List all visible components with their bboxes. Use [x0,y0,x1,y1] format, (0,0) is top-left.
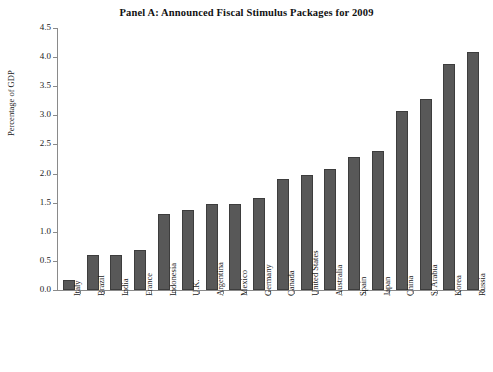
bar [420,99,432,290]
y-axis-title: Percentage of GDP [6,120,16,136]
x-axis-tick-label: Canada [286,271,296,297]
x-axis-tick-label: Korea [453,275,463,296]
x-axis-labels: ItalyBrazilIndiaFranceIndonesiaU.K.Argen… [57,296,485,372]
bar [396,111,408,290]
y-axis-tick-mark [53,144,57,145]
x-axis-tick-label: India [120,279,130,296]
x-axis-tick-label: Mexico [239,270,249,296]
y-axis-tick-mark [53,28,57,29]
bar [443,64,455,290]
x-axis-tick-label: Russia [477,273,487,296]
x-axis-tick-label: U.K. [191,279,201,296]
y-axis-line [57,28,58,290]
y-axis-tick-label: 2.5 [40,138,51,148]
y-axis-tick-label: 1.5 [40,197,51,207]
bar [372,151,384,290]
y-axis-tick-label: 4.5 [40,22,51,32]
plot-area: 0.00.51.01.52.02.53.03.54.04.5 [57,28,485,290]
x-axis-tick-label: France [144,273,154,296]
x-axis-tick-label: Italy [72,280,82,296]
y-axis-tick-mark [53,115,57,116]
y-axis-tick-mark [53,290,57,291]
y-axis-tick-mark [53,57,57,58]
x-axis-tick-label: Australia [334,265,344,296]
x-axis-tick-label: Indonesia [168,263,178,296]
x-axis-tick-label: Brazil [96,275,106,296]
y-axis-tick-label: 0.0 [40,284,51,294]
x-axis-tick-label: Argentina [215,262,225,296]
x-axis-tick-label: Germany [263,264,273,296]
chart-figure: Panel A: Announced Fiscal Stimulus Packa… [0,0,493,372]
bar [467,52,479,290]
bar [182,210,194,290]
y-axis-tick-label: 2.0 [40,168,51,178]
x-axis-tick-label: Japan [382,277,392,296]
x-axis-tick-label: China [405,276,415,296]
y-axis-tick-mark [53,203,57,204]
y-axis-title-label: Percentage of GDP [6,120,16,136]
y-axis-tick-mark [53,232,57,233]
y-axis-tick-label: 3.0 [40,109,51,119]
bar [348,157,360,290]
y-axis-tick-label: 1.0 [40,226,51,236]
x-axis-tick-label: Spain [358,277,368,296]
y-axis-tick-label: 0.5 [40,255,51,265]
y-axis-tick-mark [53,86,57,87]
y-axis-tick-label: 4.0 [40,51,51,61]
x-axis-tick-label: S. Arabia [429,264,439,296]
y-axis-tick-label: 3.5 [40,80,51,90]
y-axis-tick-mark [53,174,57,175]
y-axis-tick-mark [53,261,57,262]
x-axis-tick-label: United States [310,250,320,296]
chart-title: Panel A: Announced Fiscal Stimulus Packa… [0,7,493,18]
